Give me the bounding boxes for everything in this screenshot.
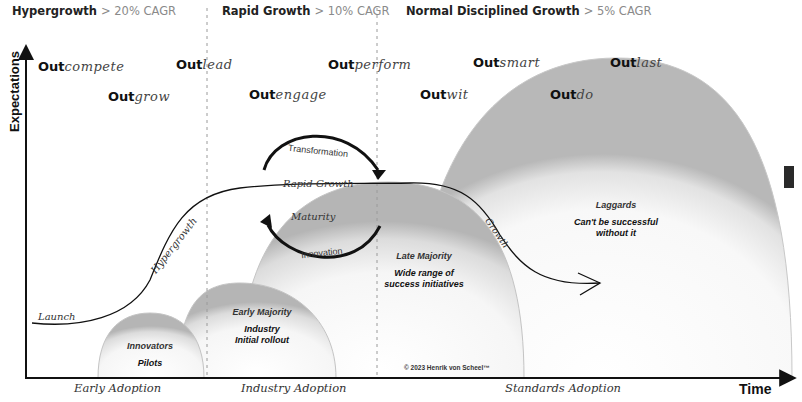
segment-desc: Pilots [120,358,180,369]
prefix: Out [328,57,355,72]
strategy-outcompete: Outcompete [38,59,124,74]
prefix: Out [176,57,203,72]
verb: lead [203,57,233,72]
phase-rate: > 20% CAGR [101,4,176,18]
label-rapid-growth: Rapid Growth [283,178,354,189]
transformation-arrowhead [372,170,386,180]
adoption-early: Early Adoption [74,381,161,395]
segment-desc: Can't be successful without it [566,217,666,239]
adoption-standards: Standards Adoption [505,381,621,395]
segment-name: Late Majority [396,251,452,261]
segment-name: Early Majority [232,307,291,317]
phase-name: Hypergrowth [12,4,97,18]
strategy-outwit: Outwit [420,87,469,102]
strategy-outlead: Outlead [176,57,232,72]
prefix: Out [108,89,135,104]
strategy-outdo: Outdo [550,87,594,102]
segment-desc: Industry Initial rollout [222,324,302,346]
phase-name: Normal Disciplined Growth [406,4,580,18]
edge-tab [784,166,794,188]
segment-desc: Wide range of success initiatives [376,268,472,290]
verb: smart [500,55,541,70]
verb: engage [276,87,327,102]
segment-laggards: Laggards Can't be successful without it [566,200,666,239]
phase-rate: > 10% CAGR [314,4,389,18]
prefix: Out [550,87,577,102]
segment-early-majority: Early Majority Industry Initial rollout [222,307,302,346]
adoption-industry: Industry Adoption [241,381,346,395]
prefix: Out [610,55,637,70]
prefix: Out [249,87,276,102]
phase-hypergrowth: Hypergrowth > 20% CAGR [12,4,176,18]
verb: grow [135,89,171,104]
y-axis-label: Expectations [7,51,22,132]
verb: compete [65,59,125,74]
phase-normal-growth: Normal Disciplined Growth > 5% CAGR [406,4,651,18]
verb: wit [447,87,469,102]
verb: last [637,55,663,70]
verb: do [577,87,594,102]
label-launch: Launch [38,311,76,322]
strategy-outgrow: Outgrow [108,89,170,104]
phase-rate: > 5% CAGR [584,4,652,18]
copyright: © 2023 Henrik von Scheel™ [404,364,490,371]
phase-rapid-growth: Rapid Growth > 10% CAGR [222,4,389,18]
segment-name: Laggards [596,200,637,210]
verb: perform [355,57,412,72]
strategy-outlast: Outlast [610,55,662,70]
strategy-outengage: Outengage [249,87,327,102]
segment-innovators: Innovators Pilots [120,341,180,369]
strategy-outsmart: Outsmart [473,55,540,70]
prefix: Out [473,55,500,70]
strategy-outperform: Outperform [328,57,411,72]
label-maturity: Maturity [291,211,335,222]
prefix: Out [420,87,447,102]
phase-name: Rapid Growth [222,4,310,18]
x-axis-label: Time [739,381,771,397]
innovation-arrowhead [260,214,272,228]
segment-name: Innovators [127,341,173,351]
segment-late-majority: Late Majority Wide range of success init… [376,251,472,290]
prefix: Out [38,59,65,74]
